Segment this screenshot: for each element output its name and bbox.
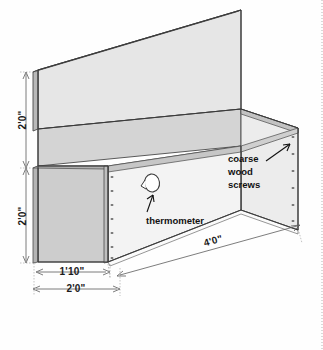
screw bbox=[111, 232, 114, 234]
screw bbox=[292, 153, 295, 155]
figure-canvas: 2'0" 2'0" 1'10" 2'0" bbox=[0, 0, 323, 350]
left-front-corner-post bbox=[104, 166, 108, 263]
dimension-label-inner-width: 1'10" bbox=[60, 266, 85, 277]
back-panel-outer bbox=[38, 10, 241, 129]
left-end-thickness bbox=[33, 166, 38, 263]
coarse-wood-screws-line-1: coarse bbox=[228, 153, 259, 164]
dimension-label-outer-width: 2'0" bbox=[66, 283, 85, 294]
back-panel-thickness bbox=[33, 70, 38, 131]
dimension-box-height: 2'0" bbox=[17, 168, 29, 263]
screw bbox=[292, 170, 295, 172]
dimension-inner-width: 1'10" bbox=[36, 266, 110, 277]
screw bbox=[111, 246, 114, 248]
screw bbox=[292, 187, 295, 189]
screw bbox=[111, 257, 114, 259]
thermometer-label: thermometer bbox=[146, 215, 204, 226]
dimension-back-panel-height: 2'0" bbox=[17, 72, 29, 168]
screw bbox=[292, 204, 295, 206]
box-isometric-drawing: 2'0" 2'0" 1'10" 2'0" bbox=[0, 0, 323, 350]
coarse-wood-screws-line-3: screws bbox=[228, 179, 260, 190]
screw bbox=[111, 190, 114, 192]
dimension-label-length: 4'0" bbox=[202, 233, 223, 249]
dimension-label-box-height: 2'0" bbox=[17, 206, 28, 225]
dimension-outer-width: 2'0" bbox=[33, 283, 120, 294]
screw bbox=[292, 136, 295, 138]
screw bbox=[111, 176, 114, 178]
left-end-panel bbox=[38, 166, 108, 262]
ext-line-diag-right bbox=[299, 232, 302, 243]
screw bbox=[292, 220, 295, 222]
coarse-wood-screws-line-2: wood bbox=[227, 166, 253, 177]
screw bbox=[111, 218, 114, 220]
screw bbox=[111, 204, 114, 206]
dimension-label-back-panel-height: 2'0" bbox=[17, 110, 28, 129]
